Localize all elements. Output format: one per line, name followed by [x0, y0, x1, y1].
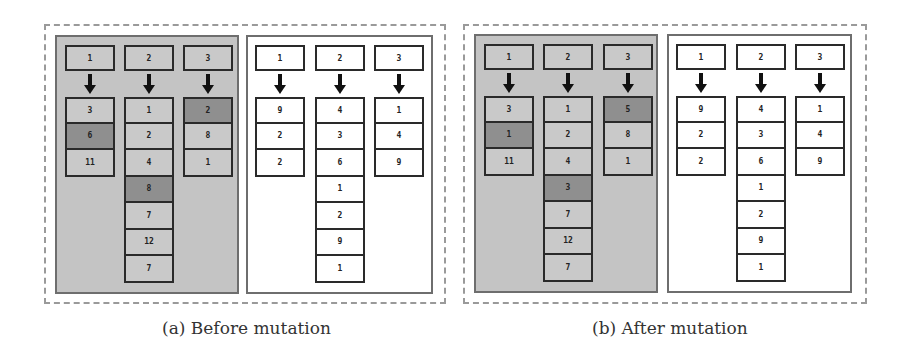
- list-cell: 3: [484, 96, 534, 123]
- down-arrow-icon: [334, 74, 346, 94]
- cell-list: 3 6 11: [65, 97, 115, 177]
- column-header: 1: [484, 44, 534, 70]
- figure-a-caption: (a) Before mutation: [162, 318, 331, 338]
- list-cell: 1: [736, 255, 786, 282]
- list-cell-highlighted: 1: [484, 123, 534, 150]
- cell-list: 1 4 9: [374, 97, 424, 177]
- list-cell: 1: [736, 176, 786, 203]
- down-arrow-icon: [622, 73, 634, 93]
- list-cell: 3: [736, 123, 786, 150]
- figure-a-white-group: 1 9 2 2 2 4 3 6 1 2 9 1 3 1 4 9: [246, 35, 433, 294]
- list-cell: 3: [65, 97, 115, 124]
- figure-b-caption: (b) After mutation: [592, 318, 748, 338]
- cell-list: 9 2 2: [676, 96, 726, 176]
- column-header: 1: [676, 44, 726, 70]
- column-header: 3: [603, 44, 653, 70]
- cell-list: 2 8 1: [183, 97, 233, 177]
- list-cell: 1: [795, 96, 845, 123]
- list-cell: 6: [315, 150, 365, 177]
- list-cell: 1: [374, 97, 424, 124]
- list-cell: 7: [543, 202, 593, 229]
- list-cell: 3: [315, 124, 365, 151]
- list-cell: 1: [315, 256, 365, 283]
- column-header: 3: [795, 44, 845, 70]
- down-arrow-icon: [695, 73, 707, 93]
- down-arrow-icon: [393, 74, 405, 94]
- list-cell-highlighted: 8: [124, 177, 174, 204]
- list-cell: 11: [65, 150, 115, 177]
- down-arrow-icon: [562, 73, 574, 93]
- list-cell: 8: [603, 123, 653, 150]
- list-cell: 7: [124, 203, 174, 230]
- list-cell: 9: [255, 97, 305, 124]
- list-cell-highlighted: 5: [603, 96, 653, 123]
- cell-list: 4 3 6 1 2 9 1: [315, 97, 365, 283]
- cell-list: 1 2 4 3 7 12 7: [543, 96, 593, 282]
- list-cell: 2: [255, 124, 305, 151]
- list-cell: 2: [676, 149, 726, 176]
- list-cell: 8: [183, 124, 233, 151]
- list-cell-highlighted: 2: [183, 97, 233, 124]
- list-cell: 4: [795, 123, 845, 150]
- column-header: 1: [65, 45, 115, 71]
- list-cell: 7: [124, 256, 174, 283]
- list-cell: 1: [315, 177, 365, 204]
- list-cell: 12: [124, 230, 174, 257]
- figure-a-gray-group: 1 3 6 11 2 1 2 4 8 7 12 7 3 2 8 1: [55, 35, 239, 294]
- list-cell-highlighted: 6: [65, 124, 115, 151]
- list-cell: 1: [124, 97, 174, 124]
- list-cell: 2: [124, 124, 174, 151]
- list-cell: 4: [374, 124, 424, 151]
- cell-list: 1 2 4 8 7 12 7: [124, 97, 174, 283]
- down-arrow-icon: [84, 74, 96, 94]
- list-cell: 9: [676, 96, 726, 123]
- column-header: 3: [183, 45, 233, 71]
- list-cell: 4: [736, 96, 786, 123]
- column-header: 2: [315, 45, 365, 71]
- down-arrow-icon: [202, 74, 214, 94]
- list-cell: 9: [795, 149, 845, 176]
- list-cell: 1: [603, 149, 653, 176]
- down-arrow-icon: [143, 74, 155, 94]
- list-cell: 7: [543, 255, 593, 282]
- list-cell: 9: [374, 150, 424, 177]
- column-header: 2: [124, 45, 174, 71]
- column-header: 2: [736, 44, 786, 70]
- down-arrow-icon: [503, 73, 515, 93]
- list-cell: 12: [543, 229, 593, 256]
- list-cell: 4: [315, 97, 365, 124]
- list-cell: 6: [736, 149, 786, 176]
- cell-list: 5 8 1: [603, 96, 653, 176]
- list-cell: 4: [124, 150, 174, 177]
- list-cell: 2: [255, 150, 305, 177]
- down-arrow-icon: [755, 73, 767, 93]
- list-cell: 1: [543, 96, 593, 123]
- column-header: 3: [374, 45, 424, 71]
- cell-list: 4 3 6 1 2 9 1: [736, 96, 786, 282]
- list-cell: 4: [543, 149, 593, 176]
- column-header: 2: [543, 44, 593, 70]
- down-arrow-icon: [814, 73, 826, 93]
- cell-list: 9 2 2: [255, 97, 305, 177]
- cell-list: 3 1 11: [484, 96, 534, 176]
- list-cell: 2: [543, 123, 593, 150]
- cell-list: 1 4 9: [795, 96, 845, 176]
- list-cell: 2: [736, 202, 786, 229]
- down-arrow-icon: [274, 74, 286, 94]
- figure-b-white-group: 1 9 2 2 2 4 3 6 1 2 9 1 3 1 4 9: [667, 34, 852, 293]
- list-cell: 11: [484, 149, 534, 176]
- column-header: 1: [255, 45, 305, 71]
- list-cell: 2: [315, 203, 365, 230]
- list-cell: 9: [736, 229, 786, 256]
- list-cell: 9: [315, 230, 365, 257]
- list-cell-highlighted: 3: [543, 176, 593, 203]
- figure-b-gray-group: 1 3 1 11 2 1 2 4 3 7 12 7 3 5 8 1: [474, 34, 658, 293]
- list-cell: 2: [676, 123, 726, 150]
- list-cell: 1: [183, 150, 233, 177]
